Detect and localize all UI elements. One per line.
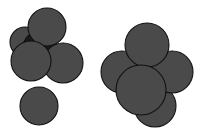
figure-canvas	[0, 0, 207, 137]
sphere-front	[116, 65, 166, 115]
sphere-isolated-bottom	[20, 87, 58, 125]
sphere-top	[125, 23, 169, 67]
sphere-top	[28, 8, 66, 46]
sphere-packing-diagram	[0, 0, 207, 137]
sphere-lower-left	[11, 41, 51, 81]
